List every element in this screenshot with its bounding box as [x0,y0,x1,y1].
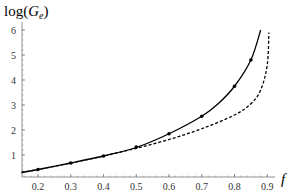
data-point-marker [200,114,204,118]
chart: 0.20.30.40.50.60.70.80.9123456 log(Ge) f [0,0,293,194]
plot-area [22,30,269,173]
data-point-marker [249,58,253,62]
x-tick-label: 0.8 [228,181,241,192]
data-point-marker [36,168,40,172]
x-tick-label: 0.9 [261,181,274,192]
x-tick-label: 0.5 [130,181,143,192]
x-tick-label: 0.4 [97,181,110,192]
y-tick-label: 4 [11,75,16,86]
y-axis-title: log(Ge) [4,3,48,21]
y-tick-label: 3 [11,100,16,111]
solid-curve [22,30,261,173]
x-tick-label: 0.2 [32,181,45,192]
dashed-curve [22,33,269,173]
data-point-marker [233,84,237,88]
y-tick-label: 6 [11,25,16,36]
data-point-marker [102,154,106,158]
y-tick-label: 1 [11,150,16,161]
x-tick-label: 0.3 [65,181,78,192]
axes [22,22,275,177]
y-tick-label: 2 [11,125,16,136]
x-tick-label: 0.6 [163,181,176,192]
x-axis-title: f [281,171,287,187]
x-tick-label: 0.7 [196,181,209,192]
data-point-marker [167,132,171,136]
data-point-marker [69,161,73,165]
data-point-marker [134,145,138,149]
y-tick-label: 5 [11,50,16,61]
